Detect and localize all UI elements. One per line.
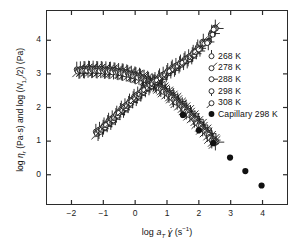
legend-item-298-k: 298 K [205, 85, 301, 97]
legend-item-268-k: 268 K [205, 50, 301, 62]
open-circle-marker-icon [205, 50, 218, 61]
legend-label: 278 K [218, 62, 241, 72]
x-tick-label: 2 [191, 208, 207, 218]
legend-item-288-k: 288 K [205, 73, 301, 85]
y-axis-label: log ηr (Pa·s) and log (N1,r/2) (Pa) [15, 10, 27, 210]
x-tick-label: 0 [127, 208, 143, 218]
y-tick-label: 3 [29, 68, 41, 78]
legend-label: 288 K [218, 74, 241, 84]
legend: 268 K278 K288 K298 K308 KCapillary 298 K [205, 50, 301, 120]
x-axis-label: log aT ɣ̇ (s−1) [46, 225, 288, 239]
x-tick-label: 1 [159, 208, 175, 218]
x-tick-label: 3 [223, 208, 239, 218]
y-tick-label: 2 [29, 102, 41, 112]
x-tick-label: 4 [255, 208, 271, 218]
x-tick-label: −1 [95, 208, 111, 218]
legend-label: Capillary 298 K [218, 109, 278, 119]
open-circle-marker-icon [205, 85, 218, 96]
chart-figure: −2−101234 01234 log aT ɣ̇ (s−1) log ηr (… [0, 0, 301, 249]
legend-item-capillary-298-k: Capillary 298 K [205, 108, 301, 120]
legend-label: 268 K [218, 51, 241, 61]
legend-item-308-k: 308 K [205, 96, 301, 108]
legend-label: 308 K [218, 97, 241, 107]
y-tick-label: 0 [29, 169, 41, 179]
open-circle-marker-icon [205, 97, 218, 108]
open-circle-marker-icon [205, 62, 218, 73]
legend-item-278-k: 278 K [205, 62, 301, 74]
y-tick-label: 4 [29, 34, 41, 44]
legend-label: 298 K [218, 86, 241, 96]
x-tick-label: −2 [63, 208, 79, 218]
filled-circle-icon [205, 108, 218, 119]
open-circle-marker-icon [205, 73, 218, 84]
y-tick-label: 1 [29, 135, 41, 145]
